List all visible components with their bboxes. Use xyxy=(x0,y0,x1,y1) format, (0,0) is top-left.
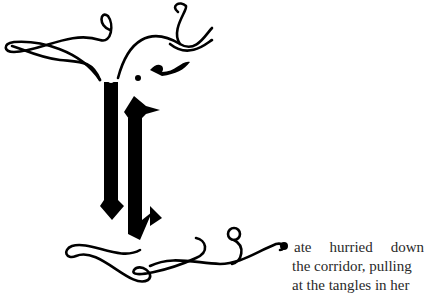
word: down xyxy=(391,238,424,257)
text-line-1: ate hurried down xyxy=(292,238,424,257)
word: ate xyxy=(294,238,311,257)
ornamental-dropcap-k-icon xyxy=(0,0,300,296)
text-line-2: the corridor, pulling xyxy=(292,257,424,276)
text-line-3-content: at the tangles in her xyxy=(292,276,409,295)
body-paragraph: ate hurried down the corridor, pulling a… xyxy=(292,238,424,295)
text-line-2-content: the corridor, pulling xyxy=(292,257,412,276)
word: hurried xyxy=(329,238,372,257)
text-line-3: at the tangles in her xyxy=(292,276,424,295)
